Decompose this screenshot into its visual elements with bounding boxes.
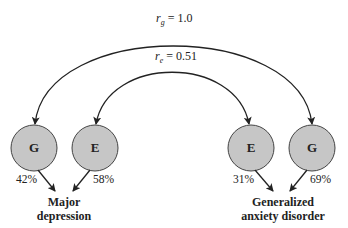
arrow-g-to-anxiety: [290, 170, 307, 191]
outcome-major-depression: Major depression: [24, 195, 104, 223]
node-label: E: [241, 140, 261, 156]
environmental-correlation-arc: [96, 72, 249, 124]
diagram-graphics: [0, 0, 348, 228]
arrow-e-to-anxiety: [255, 170, 273, 191]
arrow-g-to-depression: [38, 170, 55, 191]
percent-label: 31%: [233, 173, 254, 185]
outcome-line: anxiety disorder: [228, 209, 338, 223]
outcome-generalized-anxiety: Generalized anxiety disorder: [228, 195, 338, 223]
subscript: e: [160, 56, 164, 65]
value: = 1.0: [168, 11, 193, 25]
environmental-correlation-arc-right-head: [96, 72, 249, 124]
percent-label: 69%: [310, 173, 331, 185]
percent-label: 58%: [93, 173, 114, 185]
node-label: G: [302, 140, 322, 156]
subscript: g: [161, 18, 165, 27]
outcome-line: Generalized: [228, 195, 338, 209]
node-label: G: [24, 140, 44, 156]
genetic-correlation-label: rg = 1.0: [156, 11, 192, 27]
value: = 0.51: [166, 49, 197, 63]
percent-label: 42%: [16, 173, 37, 185]
diagram: rg = 1.0 re = 0.51 G E E G 42% 58% 31% 6…: [0, 0, 348, 228]
arrow-e-to-depression: [73, 170, 90, 191]
outcome-line: depression: [24, 209, 104, 223]
environmental-correlation-label: re = 0.51: [155, 49, 197, 65]
outcome-line: Major: [24, 195, 104, 209]
node-label: E: [85, 140, 105, 156]
